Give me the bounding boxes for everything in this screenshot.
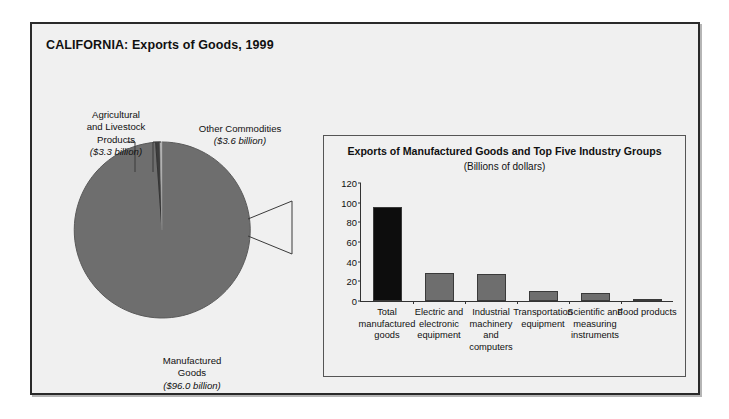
bar-1	[373, 207, 402, 301]
pie-label-line-1: Agricultural	[92, 109, 140, 120]
x-axis-label-line: manufactured	[359, 319, 416, 329]
x-axis-label-line: Scientific and	[567, 307, 622, 317]
figure-frame: CALIFORNIA: Exports of Goods, 1999 Agric…	[30, 22, 700, 395]
y-axis-tick-mark	[358, 261, 361, 262]
x-axis-category-label: Industrialmachineryandcomputers	[461, 307, 521, 353]
x-axis-label-line: Total	[377, 307, 397, 317]
pie-label-manufactured-goods: Manufactured Goods ($96.0 billion)	[102, 355, 282, 392]
pie-chart-svg	[32, 24, 332, 395]
x-axis-tick-mark	[465, 301, 466, 304]
x-axis-label-line: computers	[469, 342, 512, 352]
bar-3	[477, 274, 506, 301]
y-axis-tick-label: 120	[341, 178, 357, 189]
y-axis-tick-label: 60	[347, 237, 357, 248]
x-axis-label-line: Food products	[617, 307, 676, 317]
inset-chart-subtitle: (Billions of dollars)	[324, 161, 685, 172]
pie-label-value: ($3.3 billion)	[90, 146, 142, 157]
pie-label-line-3: Products	[97, 134, 135, 145]
y-axis-tick-label: 80	[347, 217, 357, 228]
pie-label-line-1: Manufactured	[163, 355, 222, 366]
x-axis-label-line: measuring	[573, 319, 616, 329]
pie-chart: Agricultural and Livestock Products ($3.…	[32, 24, 332, 395]
pie-to-inset-connector	[248, 201, 292, 254]
x-axis-label-line: Industrial	[472, 307, 510, 317]
pie-label-other-commodities: Other Commodities ($3.6 billion)	[170, 123, 310, 148]
pie-label-line-2: Goods	[178, 367, 206, 378]
y-axis-tick-label: 40	[347, 256, 357, 267]
y-axis-tick-label: 100	[341, 197, 357, 208]
x-axis-category-label: Electric andelectronicequipment	[409, 307, 469, 342]
x-axis-label-line: instruments	[571, 330, 619, 340]
x-axis-tick-mark	[413, 301, 414, 304]
y-axis-tick-mark	[358, 183, 361, 184]
figure-page: CALIFORNIA: Exports of Goods, 1999 Agric…	[0, 0, 729, 419]
x-axis-label-line: goods	[374, 330, 399, 340]
y-axis-tick-mark	[358, 222, 361, 223]
x-axis-label-line: Electric and	[415, 307, 464, 317]
bar-5	[581, 293, 610, 301]
y-axis-tick-mark	[358, 301, 361, 302]
bar-2	[425, 273, 454, 301]
bar-4	[529, 291, 558, 301]
x-axis-tick-mark	[621, 301, 622, 304]
x-axis-label-line: Transportation	[513, 307, 573, 317]
bar-chart-plot-area: 020406080100120TotalmanufacturedgoodsEle…	[360, 183, 673, 302]
pie-label-line-1: Other Commodities	[199, 123, 282, 134]
x-axis-category-label: Transportationequipment	[513, 307, 573, 330]
bar-6	[633, 299, 662, 301]
x-axis-tick-mark	[517, 301, 518, 304]
x-axis-label-line: electronic	[419, 319, 459, 329]
inset-chart-title: Exports of Manufactured Goods and Top Fi…	[324, 145, 685, 157]
pie-label-agricultural-and-livestock-products: Agricultural and Livestock Products ($3.…	[60, 109, 172, 159]
inset-bar-chart-panel: Exports of Manufactured Goods and Top Fi…	[323, 135, 686, 377]
y-axis-tick-label: 20	[347, 276, 357, 287]
x-axis-label-line: equipment	[521, 319, 564, 329]
y-axis-tick-mark	[358, 242, 361, 243]
pie-label-value: ($3.6 billion)	[214, 135, 266, 146]
x-axis-tick-mark	[569, 301, 570, 304]
y-axis-tick-label: 0	[352, 296, 357, 307]
x-axis-category-label: Scientific andmeasuringinstruments	[565, 307, 625, 342]
x-axis-label-line: machinery	[470, 319, 513, 329]
x-axis-category-label: Food products	[617, 307, 677, 319]
pie-label-value: ($96.0 billion)	[163, 380, 221, 391]
x-axis-label-line: and	[483, 330, 499, 340]
pie-label-line-2: and Livestock	[87, 121, 146, 132]
x-axis-label-line: equipment	[417, 330, 460, 340]
y-axis-tick-mark	[358, 281, 361, 282]
x-axis-category-label: Totalmanufacturedgoods	[357, 307, 417, 342]
y-axis-tick-mark	[358, 202, 361, 203]
